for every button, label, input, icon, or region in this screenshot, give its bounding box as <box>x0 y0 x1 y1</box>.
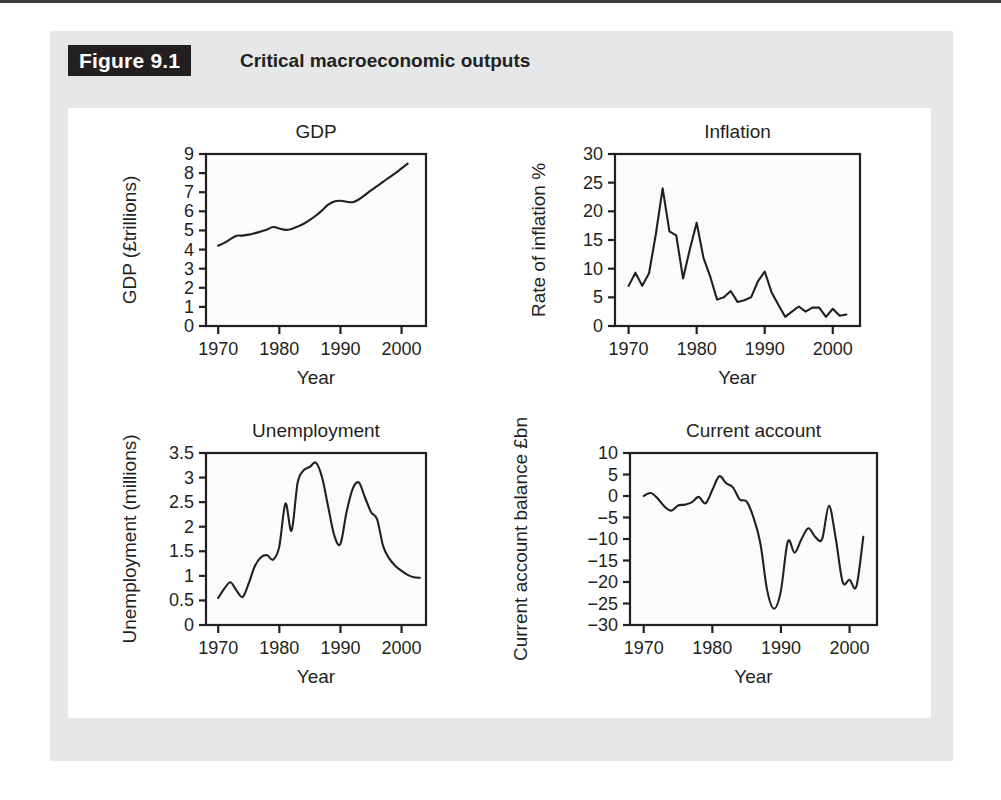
chart-current-account: Current account−30−25−20−15−10−505101970… <box>505 413 895 703</box>
y-tick-label: 8 <box>184 163 194 183</box>
y-tick-label: 1 <box>184 297 194 317</box>
y-tick-label: 20 <box>583 201 603 221</box>
chart-title: GDP <box>295 121 336 142</box>
x-axis-title: Year <box>297 666 336 687</box>
y-tick-label: 10 <box>598 443 618 463</box>
x-tick-label: 1980 <box>692 638 732 658</box>
chart-unemployment: Unemployment00.511.522.533.5197019801990… <box>114 413 444 703</box>
y-tick-label: 0 <box>593 316 603 336</box>
y-tick-label: 6 <box>184 201 194 221</box>
x-tick-label: 1970 <box>609 339 649 359</box>
x-axis-title: Year <box>734 666 773 687</box>
y-tick-label: 25 <box>583 173 603 193</box>
chart-title: Unemployment <box>252 420 380 441</box>
x-tick-label: 1990 <box>745 339 785 359</box>
x-tick-label: 2000 <box>813 339 853 359</box>
y-tick-label: 10 <box>583 259 603 279</box>
x-tick-label: 1990 <box>320 339 360 359</box>
y-tick-label: 0 <box>608 486 618 506</box>
y-tick-label: 0.5 <box>169 590 194 610</box>
y-tick-label: 5 <box>593 287 603 307</box>
x-axis-title: Year <box>297 367 336 388</box>
y-axis-title: Unemployment (millions) <box>119 434 140 643</box>
plot-area-background <box>206 154 426 326</box>
y-tick-label: 2.5 <box>169 492 194 512</box>
x-tick-label: 1980 <box>259 339 299 359</box>
chart-svg-current-account: Current account−30−25−20−15−10−505101970… <box>505 413 895 703</box>
y-tick-label: 0 <box>184 615 194 635</box>
chart-svg-unemployment: Unemployment00.511.522.533.5197019801990… <box>114 413 444 703</box>
y-tick-label: −25 <box>587 594 618 614</box>
x-tick-label: 1980 <box>677 339 717 359</box>
y-tick-label: 2 <box>184 278 194 298</box>
y-tick-label: 3 <box>184 259 194 279</box>
x-tick-label: 2000 <box>382 638 422 658</box>
x-tick-label: 1970 <box>198 638 238 658</box>
charts-panel: GDP01234567891970198019902000YearGDP (£t… <box>68 108 931 718</box>
x-tick-label: 1990 <box>761 638 801 658</box>
y-tick-label: −30 <box>587 615 618 635</box>
x-tick-label: 1980 <box>259 638 299 658</box>
plot-area-background <box>206 453 426 625</box>
figure-frame: Figure 9.1 Critical macroeconomic output… <box>50 31 953 761</box>
page-top-rule <box>0 0 1001 3</box>
y-axis-title: Rate of inflation % <box>528 163 549 317</box>
y-tick-label: 0 <box>184 316 194 336</box>
y-tick-label: −10 <box>587 529 618 549</box>
x-axis-title: Year <box>718 367 757 388</box>
y-tick-label: 5 <box>608 465 618 485</box>
figure-caption: Critical macroeconomic outputs <box>240 45 530 76</box>
y-tick-label: 3.5 <box>169 443 194 463</box>
chart-svg-inflation: Inflation0510152025301970198019902000Yea… <box>523 114 878 404</box>
x-tick-label: 2000 <box>382 339 422 359</box>
y-tick-label: −15 <box>587 551 618 571</box>
y-tick-label: 30 <box>583 144 603 164</box>
y-axis-title: GDP (£trillions) <box>119 176 140 304</box>
y-tick-label: 1 <box>184 566 194 586</box>
y-tick-label: 1.5 <box>169 541 194 561</box>
y-tick-label: 3 <box>184 468 194 488</box>
y-tick-label: 5 <box>184 220 194 240</box>
x-tick-label: 1970 <box>198 339 238 359</box>
chart-svg-gdp: GDP01234567891970198019902000YearGDP (£t… <box>114 114 444 404</box>
y-tick-label: −5 <box>597 508 618 528</box>
y-tick-label: 9 <box>184 144 194 164</box>
chart-title: Inflation <box>704 121 771 142</box>
chart-title: Current account <box>686 420 822 441</box>
chart-gdp: GDP01234567891970198019902000YearGDP (£t… <box>114 114 444 404</box>
y-axis-title: Current account balance £bn <box>510 417 531 661</box>
y-tick-label: 7 <box>184 182 194 202</box>
y-tick-label: 4 <box>184 240 194 260</box>
figure-number-tag: Figure 9.1 <box>68 45 191 76</box>
plot-area-background <box>630 453 877 625</box>
x-tick-label: 2000 <box>830 638 870 658</box>
chart-inflation: Inflation0510152025301970198019902000Yea… <box>523 114 878 404</box>
y-tick-label: −20 <box>587 572 618 592</box>
x-tick-label: 1970 <box>624 638 664 658</box>
x-tick-label: 1990 <box>320 638 360 658</box>
y-tick-label: 2 <box>184 517 194 537</box>
y-tick-label: 15 <box>583 230 603 250</box>
